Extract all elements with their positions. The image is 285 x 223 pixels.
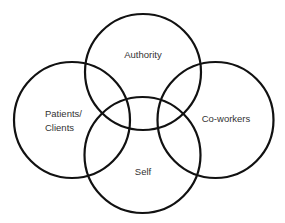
label-authority: Authority [124, 49, 162, 60]
label-patients-line2: Clients [45, 122, 74, 133]
circle-self [85, 97, 201, 213]
label-patients-line1: Patients/ [45, 108, 82, 119]
label-self: Self [135, 166, 152, 177]
label-co-workers: Co-workers [202, 113, 251, 124]
venn-diagram: Authority Patients/ Clients Co-workers S… [0, 0, 285, 223]
circle-patients-clients [14, 62, 130, 178]
